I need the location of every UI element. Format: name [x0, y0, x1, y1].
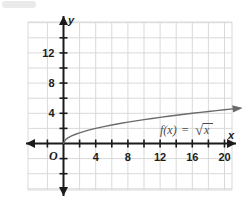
- function-name: f(x): [160, 123, 177, 137]
- function-curve-arrow: [232, 105, 242, 112]
- x-tick-label: 12: [154, 151, 166, 163]
- coordinate-plane: 48121620 4812 O y x f(x) = √ x: [0, 0, 247, 203]
- function-equation-label: f(x) = √ x: [160, 122, 213, 138]
- y-axis-arrow-up: [59, 16, 68, 25]
- radicand: x: [203, 123, 210, 137]
- x-tick-label: 20: [218, 151, 230, 163]
- y-axis-arrow-down: [59, 187, 68, 196]
- x-axis-label: x: [227, 129, 235, 141]
- grid-lines: [28, 22, 232, 190]
- x-tick-label: 4: [93, 151, 100, 163]
- x-axis-arrow-left: [26, 139, 35, 148]
- x-tick-label: 8: [125, 151, 131, 163]
- y-tick-label: 4: [48, 107, 55, 119]
- y-tick-label: 8: [48, 77, 54, 89]
- equals-sign: =: [181, 123, 189, 137]
- origin-label: O: [49, 149, 58, 163]
- y-tick-label: 12: [42, 47, 54, 59]
- axes: [26, 16, 236, 196]
- x-tick-labels: 48121620: [93, 151, 231, 163]
- graph-figure: 48121620 4812 O y x f(x) = √ x: [0, 0, 247, 203]
- radical-sign: √: [195, 122, 204, 138]
- x-tick-label: 16: [186, 151, 198, 163]
- y-axis-label: y: [67, 14, 75, 26]
